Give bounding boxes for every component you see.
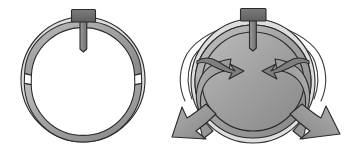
ring-gap-left — [24, 74, 31, 85]
ring-gap-right — [135, 74, 142, 85]
split-ring-diagram: Split ring device: closed state and expa… — [0, 0, 361, 146]
mounting-tab-expanded — [241, 9, 267, 22]
center-post — [80, 21, 87, 52]
mounting-tab — [72, 10, 96, 23]
center-post-expanded — [250, 20, 257, 51]
figure-root: Split ring device: closed state and expa… — [0, 0, 361, 146]
